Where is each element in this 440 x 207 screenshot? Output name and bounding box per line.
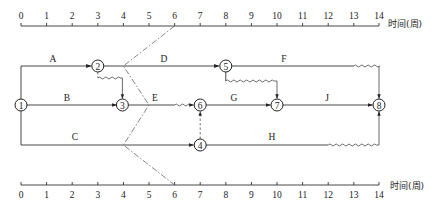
node-7: 7 — [271, 99, 283, 111]
svg-text:3: 3 — [120, 101, 125, 111]
activity-a-label: A — [50, 54, 57, 64]
activity-d-label: D — [161, 54, 168, 64]
tick-label: 7 — [198, 11, 203, 21]
activity-b-label: B — [64, 93, 70, 103]
node-1: 1 — [15, 99, 27, 111]
activity-j-label: J — [325, 93, 329, 103]
activity-h-free-float — [328, 112, 379, 147]
tick-label: 10 — [272, 190, 282, 200]
svg-text:4: 4 — [198, 141, 203, 151]
top-time-axis: 0 1 2 3 4 5 6 7 8 9 10 11 12 13 14 时间(周) — [19, 11, 422, 29]
svg-text:2: 2 — [95, 62, 100, 72]
tick-label: 6 — [172, 11, 177, 21]
node-4: 4 — [194, 139, 206, 151]
node-6: 6 — [194, 99, 206, 111]
tick-label: 12 — [323, 190, 333, 200]
tick-label: 4 — [121, 190, 126, 200]
node-2: 2 — [92, 60, 104, 72]
tick-label: 4 — [121, 11, 126, 21]
bottom-axis-tick-labels: 0 1 2 3 4 5 6 7 8 9 10 11 12 13 14 — [19, 190, 384, 200]
tick-label: 11 — [298, 11, 307, 21]
tick-label: 1 — [44, 11, 49, 21]
tick-label: 8 — [223, 190, 228, 200]
axis-unit-label: 时间(周) — [390, 180, 424, 191]
tick-label: 6 — [172, 190, 177, 200]
tick-label: 9 — [249, 11, 254, 21]
tick-label: 5 — [147, 11, 152, 21]
top-axis-tick-labels: 0 1 2 3 4 5 6 7 8 9 10 11 12 13 14 — [19, 11, 384, 21]
activity-a-arrow — [21, 66, 91, 99]
node-8: 8 — [373, 99, 385, 111]
svg-text:5: 5 — [223, 62, 228, 72]
tick-label: 11 — [298, 190, 307, 200]
activity-g-label: G — [231, 93, 238, 103]
tick-label: 5 — [147, 190, 152, 200]
node-5: 5 — [220, 60, 232, 72]
tick-label: 12 — [323, 11, 333, 21]
tick-label: 7 — [198, 190, 203, 200]
axis-unit-label: 时间(周) — [388, 18, 422, 29]
bottom-time-axis: 0 1 2 3 4 5 6 7 8 9 10 11 12 13 14 时间(周) — [19, 180, 424, 200]
tick-label: 13 — [349, 11, 359, 21]
tick-label: 9 — [249, 190, 254, 200]
node-3: 3 — [116, 99, 128, 111]
tick-label: 10 — [272, 11, 282, 21]
svg-text:6: 6 — [198, 101, 203, 111]
tick-label: 0 — [19, 190, 24, 200]
tick-label: 3 — [95, 190, 100, 200]
tick-label: 0 — [19, 11, 24, 21]
tick-label: 2 — [70, 11, 75, 21]
activity-e-free-float — [175, 104, 194, 106]
tick-label: 8 — [223, 11, 228, 21]
svg-text:7: 7 — [275, 101, 280, 111]
activity-f-free-float — [354, 65, 380, 99]
tick-label: 2 — [70, 190, 75, 200]
svg-text:8: 8 — [377, 101, 382, 111]
activity-h-label: H — [269, 132, 276, 142]
dummy-2-3-wavy — [98, 77, 123, 99]
activity-c-arrow — [21, 111, 194, 145]
activity-f-label: F — [281, 54, 286, 64]
tick-label: 14 — [374, 190, 384, 200]
progress-check-line — [123, 26, 174, 185]
tick-label: 14 — [374, 11, 384, 21]
tick-label: 13 — [349, 190, 359, 200]
tick-label: 1 — [44, 190, 49, 200]
activity-c-label: C — [72, 132, 78, 142]
time-scaled-network-diagram: 0 1 2 3 4 5 6 7 8 9 10 11 12 13 14 时间(周) — [0, 0, 440, 207]
svg-text:1: 1 — [19, 101, 24, 111]
tick-label: 3 — [95, 11, 100, 21]
activity-e-label: E — [152, 93, 158, 103]
